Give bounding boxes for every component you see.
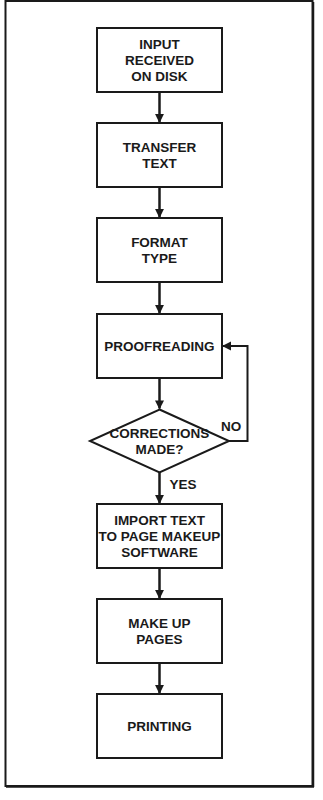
flowchart: INPUTRECEIVEDON DISKTRANSFERTEXTFORMATTY… xyxy=(0,0,323,800)
node-label-input: INPUT xyxy=(139,37,180,52)
node-label-import: SOFTWARE xyxy=(121,545,198,560)
node-label-corrections: MADE? xyxy=(136,442,184,457)
node-label-proofreading: PROOFREADING xyxy=(104,339,214,354)
node-label-transfer: TRANSFER xyxy=(123,140,197,155)
decision-corrections xyxy=(90,410,229,473)
node-label-input: RECEIVED xyxy=(125,53,194,68)
node-label-format: TYPE xyxy=(142,251,177,266)
node-label-transfer: TEXT xyxy=(142,156,177,171)
process-box-makeup xyxy=(97,599,222,663)
process-box-transfer xyxy=(97,123,222,187)
edge-label-no: NO xyxy=(221,419,241,434)
node-label-makeup: MAKE UP xyxy=(128,616,190,631)
node-label-format: FORMAT xyxy=(131,235,188,250)
process-box-format xyxy=(97,218,222,282)
node-label-import: IMPORT TEXT xyxy=(114,513,206,528)
node-label-corrections: CORRECTIONS xyxy=(110,426,210,441)
node-label-makeup: PAGES xyxy=(136,632,182,647)
edge-label-yes: YES xyxy=(170,477,197,492)
node-label-input: ON DISK xyxy=(131,69,188,84)
node-label-printing: PRINTING xyxy=(127,719,192,734)
node-label-import: TO PAGE MAKEUP xyxy=(99,529,221,544)
